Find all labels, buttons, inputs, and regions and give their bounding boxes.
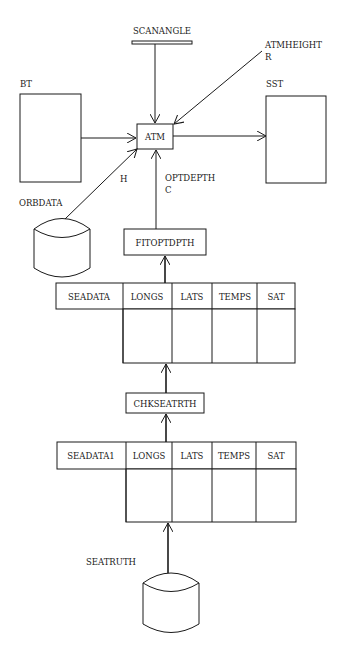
chkseatrth-process: CHKSEATRTH (126, 393, 204, 413)
scanangle-label: SCANANGLE (133, 26, 191, 36)
sst-node: SST (266, 79, 326, 183)
scanangle-bar (132, 41, 192, 44)
seatruth-label: SEATRUTH (86, 557, 136, 567)
seadata1-table: SEADATA1 LONGS LATS TEMPS SAT (57, 442, 296, 522)
bt-label: BT (20, 79, 32, 89)
edge-label-optdepth: OPTDEPTH (165, 173, 215, 183)
bt-node: BT (20, 79, 81, 182)
sst-box (266, 96, 326, 183)
seadata-table: SEADATA LONGS LATS TEMPS SAT (56, 283, 295, 363)
atm-process: ATM (137, 124, 173, 149)
fitoptdpth-process: FITOPTDPTH (124, 229, 206, 255)
seatruth-disk (143, 573, 199, 633)
atmheight-sub-label: R (265, 52, 272, 62)
seatruth-node: SEATRUTH (86, 557, 199, 633)
orbdata-node: ORBDATA (19, 198, 90, 277)
fitoptdpth-label: FITOPTDPTH (136, 238, 195, 248)
atmheight-label: ATMHEIGHT (264, 40, 322, 50)
seadata1-col-lats: LATS (181, 451, 204, 461)
seadata1-col-longs: LONGS (133, 451, 166, 461)
atmheight-node: ATMHEIGHT R (264, 40, 322, 62)
seadata1-col-sat: SAT (267, 451, 284, 461)
seadata1-name: SEADATA1 (67, 451, 114, 461)
bt-box (20, 94, 81, 182)
chkseatrth-label: CHKSEATRTH (134, 399, 197, 409)
data-flow-diagram: SCANANGLE ATMHEIGHT R BT SST ATM ORBDATA… (0, 0, 339, 660)
seadata-col-temps: TEMPS (219, 292, 251, 302)
seadata1-col-temps: TEMPS (218, 451, 250, 461)
orbdata-label: ORBDATA (19, 198, 63, 208)
seadata-body (123, 309, 295, 363)
sst-label: SST (266, 79, 283, 89)
scanangle-node: SCANANGLE (132, 26, 192, 44)
seadata-col-sat: SAT (267, 292, 284, 302)
atm-label: ATM (144, 132, 165, 142)
seadata1-body (126, 469, 296, 522)
orbdata-disk (34, 219, 90, 278)
edge-label-optdepth-sub: C (165, 185, 172, 195)
seadata-name: SEADATA (68, 292, 111, 302)
seadata-col-longs: LONGS (131, 292, 164, 302)
arrow-atmheight-to-atm (174, 51, 262, 124)
edge-label-h: H (120, 174, 127, 184)
seadata-col-lats: LATS (181, 292, 204, 302)
